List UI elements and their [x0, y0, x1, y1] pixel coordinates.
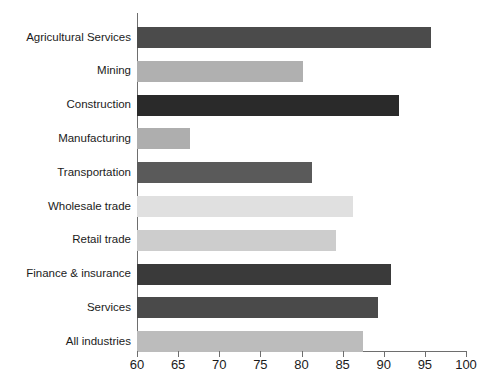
bar	[137, 61, 303, 82]
bar-chart: Agricultural ServicesMiningConstructionM…	[0, 0, 486, 379]
bar-fill	[137, 297, 378, 318]
category-label: Transportation	[57, 166, 131, 179]
x-tick-label: 85	[335, 357, 349, 372]
x-tick-label: 95	[418, 357, 432, 372]
x-tick-label: 65	[171, 357, 185, 372]
category-label: Manufacturing	[58, 132, 131, 145]
x-tick-label: 80	[294, 357, 308, 372]
bar	[137, 230, 336, 251]
x-tick-label: 60	[130, 357, 144, 372]
category-label: Services	[87, 301, 131, 314]
bar-fill	[137, 95, 399, 116]
bar-fill	[137, 196, 353, 217]
bar-fill	[137, 27, 431, 48]
x-tick-label: 70	[212, 357, 226, 372]
x-tick-label: 100	[455, 357, 477, 372]
x-tick-label: 75	[253, 357, 267, 372]
category-label: Construction	[66, 98, 131, 111]
bar	[137, 162, 312, 183]
category-label: All industries	[66, 335, 131, 348]
category-label: Agricultural Services	[26, 31, 131, 44]
x-tick-label: 90	[377, 357, 391, 372]
bar-fill	[137, 331, 363, 352]
bar-fill	[137, 61, 303, 82]
category-label: Wholesale trade	[48, 200, 131, 213]
bar-fill	[137, 162, 312, 183]
bar	[137, 128, 190, 149]
bar-fill	[137, 264, 391, 285]
bar-fill	[137, 128, 190, 149]
category-label: Mining	[97, 64, 131, 77]
bar	[137, 297, 378, 318]
bar	[137, 95, 399, 116]
bar	[137, 331, 363, 352]
bar	[137, 264, 391, 285]
bar-fill	[137, 230, 336, 251]
bar	[137, 196, 353, 217]
category-label: Finance & insurance	[26, 267, 131, 280]
category-label: Retail trade	[72, 233, 131, 246]
bar	[137, 27, 431, 48]
